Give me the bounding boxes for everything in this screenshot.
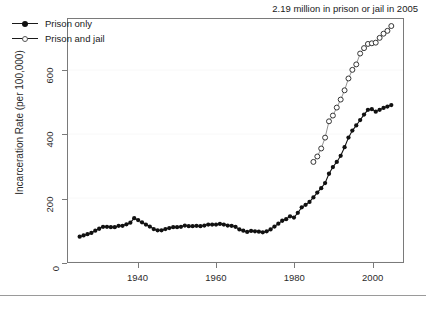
x-axis-tick-label: 1980 bbox=[274, 272, 314, 283]
data-point-filled bbox=[366, 108, 370, 112]
data-point-filled bbox=[253, 229, 257, 233]
data-point-filled bbox=[257, 229, 261, 233]
data-point-filled bbox=[226, 223, 230, 227]
data-point-filled bbox=[339, 154, 343, 158]
data-point-filled bbox=[167, 226, 171, 230]
data-point-filled bbox=[292, 215, 296, 219]
y-axis-tick bbox=[62, 263, 67, 264]
data-point-filled bbox=[171, 225, 175, 229]
data-point-open bbox=[389, 24, 394, 29]
data-point-open bbox=[342, 88, 347, 93]
data-point-open bbox=[373, 40, 378, 45]
data-point-filled bbox=[233, 225, 237, 229]
data-point-filled bbox=[132, 216, 136, 220]
data-point-open bbox=[327, 119, 332, 124]
data-point-filled bbox=[101, 225, 105, 229]
legend-item-prison-only: Prison only bbox=[12, 16, 105, 31]
open-circle-marker-icon bbox=[12, 33, 38, 45]
data-point-filled bbox=[261, 230, 265, 234]
data-point-filled bbox=[148, 224, 152, 228]
series-line bbox=[313, 26, 391, 162]
data-point-filled bbox=[124, 222, 128, 226]
data-point-filled bbox=[202, 223, 206, 227]
data-point-filled bbox=[152, 227, 156, 231]
x-axis-tick-label: 2000 bbox=[353, 272, 393, 283]
data-point-filled bbox=[249, 229, 253, 233]
data-point-filled bbox=[284, 217, 288, 221]
data-point-filled bbox=[163, 227, 167, 231]
data-point-filled bbox=[89, 231, 93, 235]
data-point-filled bbox=[381, 106, 385, 110]
data-point-filled bbox=[327, 172, 331, 176]
data-point-filled bbox=[374, 110, 378, 114]
data-point-filled bbox=[229, 224, 233, 228]
data-point-filled bbox=[183, 223, 187, 227]
x-axis-tick bbox=[373, 263, 374, 268]
data-point-open bbox=[319, 146, 324, 151]
data-point-filled bbox=[331, 165, 335, 169]
data-point-filled bbox=[346, 135, 350, 139]
data-point-filled bbox=[280, 219, 284, 223]
data-point-filled bbox=[179, 225, 183, 229]
data-point-filled bbox=[311, 195, 315, 199]
y-axis-tick-label: 0 bbox=[22, 258, 58, 268]
bottom-divider bbox=[0, 295, 426, 296]
data-point-filled bbox=[191, 224, 195, 228]
data-point-filled bbox=[85, 232, 89, 236]
data-point-filled bbox=[194, 224, 198, 228]
data-point-filled bbox=[210, 222, 214, 226]
data-point-filled bbox=[144, 222, 148, 226]
plot-canvas bbox=[68, 19, 403, 262]
data-point-filled bbox=[307, 200, 311, 204]
data-point-filled bbox=[370, 107, 374, 111]
legend-item-prison-and-jail: Prison and jail bbox=[12, 31, 105, 46]
data-point-filled bbox=[93, 229, 97, 233]
data-point-open bbox=[330, 113, 335, 118]
data-point-filled bbox=[245, 230, 249, 234]
data-point-filled bbox=[155, 228, 159, 232]
y-axis-tick-label: 400 bbox=[22, 129, 58, 139]
x-axis-tick bbox=[216, 263, 217, 268]
data-point-filled bbox=[222, 222, 226, 226]
data-point-open bbox=[346, 76, 351, 81]
data-point-open bbox=[323, 135, 328, 140]
y-axis-tick bbox=[62, 199, 67, 200]
data-point-filled bbox=[358, 118, 362, 122]
legend-label-prison-and-jail: Prison and jail bbox=[45, 33, 105, 44]
data-point-filled bbox=[81, 233, 85, 237]
x-axis-tick bbox=[138, 263, 139, 268]
data-point-filled bbox=[198, 224, 202, 228]
data-point-open bbox=[311, 159, 316, 164]
data-point-filled bbox=[319, 186, 323, 190]
data-point-open bbox=[315, 154, 320, 159]
data-point-filled bbox=[268, 227, 272, 231]
series-prison-and-jail bbox=[311, 24, 394, 165]
x-axis-tick-label: 1960 bbox=[196, 272, 236, 283]
data-point-filled bbox=[97, 227, 101, 231]
y-axis-tick-label: 600 bbox=[22, 65, 58, 75]
data-point-filled bbox=[187, 224, 191, 228]
chart-legend: Prison only Prison and jail bbox=[12, 16, 105, 46]
data-point-open bbox=[338, 97, 343, 102]
data-point-filled bbox=[265, 229, 269, 233]
data-point-filled bbox=[206, 222, 210, 226]
data-point-open bbox=[354, 62, 359, 67]
legend-label-prison-only: Prison only bbox=[45, 18, 92, 29]
data-point-filled bbox=[272, 224, 276, 228]
data-point-filled bbox=[315, 190, 319, 194]
data-point-filled bbox=[214, 222, 218, 226]
y-axis-tick bbox=[62, 70, 67, 71]
data-point-filled bbox=[276, 222, 280, 226]
y-axis-tick-label: 200 bbox=[22, 194, 58, 204]
data-point-filled bbox=[105, 225, 109, 229]
data-point-filled bbox=[377, 108, 381, 112]
chart-annotation: 2.19 million in prison or jail in 2005 bbox=[272, 3, 418, 14]
x-axis-tick bbox=[294, 263, 295, 268]
data-point-open bbox=[350, 67, 355, 72]
data-point-filled bbox=[389, 103, 393, 107]
data-point-filled bbox=[128, 221, 132, 225]
data-point-filled bbox=[300, 205, 304, 209]
data-point-filled bbox=[342, 145, 346, 149]
data-point-filled bbox=[113, 225, 117, 229]
data-point-filled bbox=[136, 218, 140, 222]
